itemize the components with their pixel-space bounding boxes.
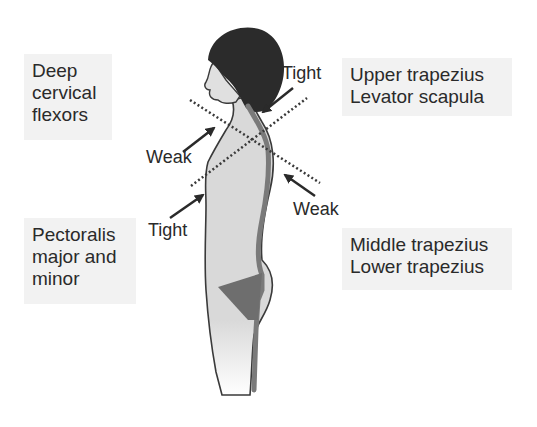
middle-lower-trapezius-box: Middle trapezius Lower trapezius: [342, 228, 512, 290]
box-line: Deep: [32, 60, 104, 82]
label-tight-lower: Tight: [148, 220, 187, 240]
box-line: Pectoralis: [32, 224, 128, 246]
head: [205, 28, 284, 113]
label-weak-front: Weak: [146, 147, 192, 167]
box-line: Levator scapula: [350, 86, 504, 108]
deep-cervical-flexors-box: Deep cervical flexors: [24, 54, 112, 140]
box-line: flexors: [32, 104, 104, 126]
upper-trapezius-levator-box: Upper trapezius Levator scapula: [342, 58, 512, 116]
box-line: major and: [32, 246, 128, 268]
label-tight-upper: Tight: [282, 63, 321, 83]
box-line: Middle trapezius: [350, 234, 504, 256]
arrow-weak-back-icon: [285, 175, 315, 196]
arrow-tight-lower-icon: [170, 195, 203, 218]
box-line: Lower trapezius: [350, 256, 504, 278]
label-weak-back: Weak: [293, 199, 339, 219]
box-line: Upper trapezius: [350, 64, 504, 86]
box-line: minor: [32, 268, 128, 290]
pectoralis-box: Pectoralis major and minor: [24, 218, 136, 304]
body-silhouette: [205, 96, 273, 395]
box-line: cervical: [32, 82, 104, 104]
